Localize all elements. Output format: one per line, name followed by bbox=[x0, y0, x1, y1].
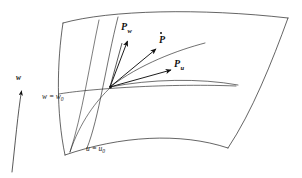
vector-label-pu: Pu bbox=[174, 59, 184, 69]
vector-label-pw: Pw bbox=[121, 22, 131, 32]
tangent-origin-point bbox=[109, 86, 112, 89]
axis-label-w-text: w bbox=[16, 73, 21, 82]
auxiliary-parameter-curve bbox=[70, 20, 99, 152]
tangent-vector-pw-secondary bbox=[110, 43, 122, 87]
vector-label-pdot: P bbox=[159, 35, 165, 45]
vector-label-pdot-base: P bbox=[159, 35, 165, 45]
patch-edge-left bbox=[58, 23, 65, 155]
iso-u-curve bbox=[87, 17, 118, 148]
axis-label-w: w bbox=[16, 74, 21, 82]
curve-label-u-equals-u0: u = u0 bbox=[86, 145, 105, 153]
curve-label-w-text: w = w bbox=[42, 92, 61, 101]
vector-label-pw-subscript: w bbox=[127, 27, 131, 34]
figure-canvas: Pw P Pu w = w0 u = u0 w bbox=[0, 0, 302, 178]
curve-label-u-text: u = u bbox=[86, 144, 102, 153]
iso-w-curve bbox=[59, 85, 236, 94]
curve-label-w-equals-w0: w = w0 bbox=[42, 93, 64, 101]
curve-label-w-subscript: 0 bbox=[61, 96, 64, 102]
surface-patch-outline bbox=[58, 12, 288, 155]
patch-edge-top bbox=[63, 12, 288, 23]
w-axis-arrow bbox=[12, 91, 22, 172]
curve-label-u-subscript: 0 bbox=[102, 148, 105, 154]
vector-label-pu-subscript: u bbox=[180, 64, 184, 71]
auxiliary-surface-curve bbox=[70, 87, 111, 152]
patch-edge-right bbox=[228, 18, 288, 148]
surface-diagram-svg bbox=[0, 0, 302, 178]
tangent-vector-pu-arrow bbox=[110, 70, 171, 87]
